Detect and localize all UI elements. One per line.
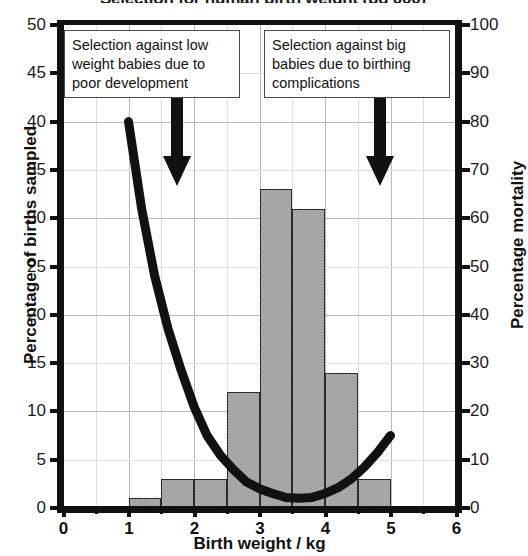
y-tick-left	[50, 361, 59, 365]
y-tick-left	[50, 265, 59, 269]
y-tick-left	[50, 313, 59, 317]
y-tick-label-left: 45	[6, 63, 46, 83]
y-tick-right	[461, 168, 470, 172]
y-tick-label-right: 20	[470, 401, 516, 421]
y-tick-right	[461, 23, 470, 27]
annotation-box-big-babies: Selection against big babies due to birt…	[264, 30, 450, 98]
x-tick-minor	[160, 507, 163, 514]
y-tick-left	[50, 409, 59, 413]
y-tick-label-right: 0	[470, 498, 516, 518]
y-tick-left	[50, 216, 59, 220]
y-tick-right	[461, 120, 470, 124]
y-tick-label-right: 10	[470, 450, 516, 470]
x-tick-major	[127, 507, 131, 517]
y-tick-label-left: 0	[6, 498, 46, 518]
y-tick-right	[461, 409, 470, 413]
y-tick-label-left: 5	[6, 450, 46, 470]
y-tick-left	[50, 71, 59, 75]
x-axis-label: Birth weight / kg	[63, 534, 456, 554]
y-tick-right	[461, 458, 470, 462]
y-tick-label-right: 90	[470, 63, 516, 83]
x-tick-minor	[226, 507, 229, 514]
x-tick-minor	[95, 507, 98, 514]
down-arrow-icon-low	[162, 98, 192, 188]
y-axis-label-left: Percentage of births sampled	[21, 115, 41, 375]
y-tick-label-left: 10	[6, 401, 46, 421]
y-tick-left	[50, 506, 59, 510]
annotation-box-low-weight: Selection against low weight babies due …	[64, 30, 240, 98]
y-tick-label-left: 50	[6, 15, 46, 35]
y-tick-right	[461, 216, 470, 220]
x-tick-major	[193, 507, 197, 517]
x-tick-major	[258, 507, 262, 517]
y-axis-label-right: Percentage mortality	[508, 115, 528, 375]
y-tick-right	[461, 71, 470, 75]
y-tick-left	[50, 120, 59, 124]
x-tick-minor	[422, 507, 425, 514]
y-tick-right	[461, 265, 470, 269]
x-tick-major	[455, 507, 459, 517]
x-tick-major	[324, 507, 328, 517]
x-tick-minor	[357, 507, 360, 514]
y-tick-left	[50, 458, 59, 462]
axis-spine-top	[57, 20, 462, 25]
x-tick-minor	[291, 507, 294, 514]
y-tick-label-right: 100	[470, 15, 516, 35]
y-tick-left	[50, 168, 59, 172]
down-arrow-icon-big	[365, 98, 395, 188]
x-tick-major	[389, 507, 393, 517]
x-tick-major	[62, 507, 66, 517]
y-tick-right	[461, 313, 470, 317]
y-tick-right	[461, 361, 470, 365]
y-tick-right	[461, 506, 470, 510]
y-tick-left	[50, 23, 59, 27]
